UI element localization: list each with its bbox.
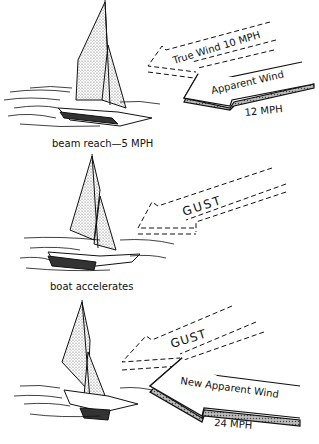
caption-beam-reach: beam reach—5 MPH — [52, 138, 153, 149]
apparent-wind-diagram: True Wind 10 MPH Apparent Wind 12 MPH be… — [0, 0, 319, 444]
caption-boat-accelerates: boat accelerates — [50, 281, 133, 292]
catamaran-icon — [20, 154, 174, 271]
true-wind-label: True Wind 10 MPH — [170, 29, 261, 66]
catamaran-icon — [14, 300, 160, 420]
catamaran-icon — [4, 0, 160, 127]
panel-1-beam-reach: True Wind 10 MPH Apparent Wind 12 MPH be… — [4, 0, 314, 149]
apparent-wind-speed: 12 MPH — [244, 103, 283, 118]
new-apparent-wind-speed: 24 MPH — [214, 417, 253, 431]
gust-label-2: GUST — [169, 327, 209, 351]
panel-2-gust: GUST boat accelerates — [20, 154, 286, 292]
diagram-canvas: True Wind 10 MPH Apparent Wind 12 MPH be… — [0, 0, 319, 444]
panel-3-new-apparent-wind: GUST New Apparent Wind 24 MPH — [14, 300, 300, 431]
